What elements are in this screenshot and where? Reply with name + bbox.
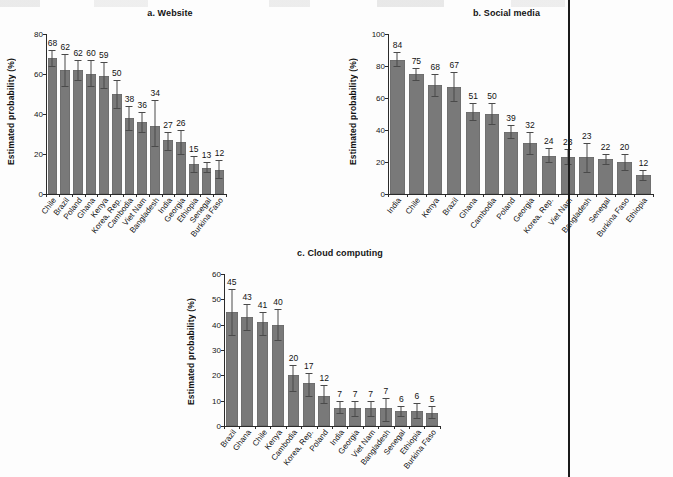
- bar-group[interactable]: 7Georgia: [347, 274, 362, 426]
- bar[interactable]: [86, 74, 96, 194]
- bar[interactable]: [99, 76, 109, 194]
- xtick-mark: [424, 426, 425, 429]
- xtick-mark: [520, 194, 521, 197]
- bar[interactable]: [466, 112, 480, 194]
- bar-group[interactable]: 68Kenya: [426, 34, 445, 194]
- bar-group[interactable]: 38Cambodia: [123, 34, 136, 194]
- panel-c-ytick-label: 30: [212, 346, 221, 355]
- bar-group[interactable]: 59Kenya: [97, 34, 110, 194]
- bar-group[interactable]: 13Senegal: [200, 34, 213, 194]
- bar[interactable]: [241, 317, 253, 426]
- bar-group[interactable]: 60Ghana: [85, 34, 98, 194]
- error-cap-upper: [394, 52, 401, 53]
- bar-group[interactable]: 40Kenya: [270, 274, 285, 426]
- bar-group[interactable]: 12Burkina Faso: [213, 34, 226, 194]
- error-cap-upper: [489, 103, 496, 104]
- error-cap-lower: [394, 66, 401, 67]
- bar-value-label: 12: [320, 373, 329, 383]
- panel-c-ytick-label: 20: [212, 371, 221, 380]
- bar-group[interactable]: 75Chile: [407, 34, 426, 194]
- panel-c-ytick-label: 60: [212, 270, 221, 279]
- bar[interactable]: [112, 94, 122, 194]
- xtick-mark: [255, 426, 256, 429]
- error-cap-upper: [621, 154, 628, 155]
- bar-group[interactable]: 43Ghana: [239, 274, 254, 426]
- bar-group[interactable]: 12Poland: [317, 274, 332, 426]
- error-bar: [293, 365, 294, 390]
- error-cap-lower: [413, 80, 420, 81]
- bar[interactable]: [73, 70, 83, 194]
- bar-group[interactable]: 45Brazil: [224, 274, 239, 426]
- xtick-mark: [213, 194, 214, 197]
- bar-group[interactable]: 24Korea, Rep.: [539, 34, 558, 194]
- bar-group[interactable]: 5Burkina Faso: [424, 274, 439, 426]
- error-bar: [65, 54, 66, 86]
- bar-group[interactable]: 32Georgia: [520, 34, 539, 194]
- bar-group[interactable]: 34Bangladesh: [149, 34, 162, 194]
- bar-value-label: 68: [48, 38, 57, 48]
- bar-group[interactable]: 7India: [332, 274, 347, 426]
- bar-value-label: 67: [449, 60, 458, 70]
- bar[interactable]: [48, 58, 58, 194]
- error-bar: [586, 143, 587, 172]
- error-cap-upper: [62, 54, 69, 55]
- xtick-mark: [226, 194, 227, 197]
- xtick-mark: [407, 194, 408, 197]
- bar-group[interactable]: 50Cambodia: [483, 34, 502, 194]
- bar-group[interactable]: 39Poland: [502, 34, 521, 194]
- bar-group[interactable]: 17Korea, Rep.: [301, 274, 316, 426]
- bar-group[interactable]: 23Bangladesh: [577, 34, 596, 194]
- bar-group[interactable]: 20Cambodia: [286, 274, 301, 426]
- bar-group[interactable]: 7Bangladesh: [378, 274, 393, 426]
- bar-group[interactable]: 15Ethiopia: [187, 34, 200, 194]
- bar[interactable]: [485, 114, 499, 194]
- error-cap-upper: [203, 162, 210, 163]
- bar-group[interactable]: 26Georgia: [174, 34, 187, 194]
- panel-c-ytick-label: 50: [212, 295, 221, 304]
- bar-group[interactable]: 12Ethiopia: [634, 34, 653, 194]
- bar-group[interactable]: 6Senegal: [394, 274, 409, 426]
- error-bar: [219, 160, 220, 178]
- bar-value-label: 6: [399, 394, 404, 404]
- error-bar: [90, 60, 91, 86]
- error-cap-upper: [165, 132, 172, 133]
- bar-group[interactable]: 50Korea, Rep.: [110, 34, 123, 194]
- bar-group[interactable]: 7Viet Nam: [363, 274, 378, 426]
- bar-value-label: 60: [86, 48, 95, 58]
- bar[interactable]: [60, 70, 70, 194]
- error-cap-lower: [432, 96, 439, 97]
- error-bar: [643, 170, 644, 180]
- bar-group[interactable]: 62Poland: [72, 34, 85, 194]
- bar-group[interactable]: 20Burkina Faso: [615, 34, 634, 194]
- error-cap-lower: [583, 172, 590, 173]
- bar-group[interactable]: 22Senegal: [596, 34, 615, 194]
- bar[interactable]: [428, 85, 442, 194]
- bar-group[interactable]: 6Ethiopia: [409, 274, 424, 426]
- bar[interactable]: [504, 132, 518, 194]
- error-cap-lower: [203, 172, 210, 173]
- error-cap-upper: [583, 143, 590, 144]
- bar-group[interactable]: 68Chile: [46, 34, 59, 194]
- bar-group[interactable]: 84India: [388, 34, 407, 194]
- bar[interactable]: [447, 87, 461, 194]
- error-bar: [432, 406, 433, 419]
- xtick-mark: [174, 194, 175, 197]
- error-bar: [385, 398, 386, 421]
- bar[interactable]: [390, 60, 404, 194]
- bar-group[interactable]: 36Viet Nam: [136, 34, 149, 194]
- bar-group[interactable]: 62Brazil: [59, 34, 72, 194]
- panel-b-social-media: b. Social media Estimated probability (%…: [340, 8, 673, 240]
- panel-a-title: a. Website: [0, 8, 340, 18]
- bar-value-label: 7: [337, 389, 342, 399]
- bar-group[interactable]: 67Brazil: [445, 34, 464, 194]
- error-cap-lower: [398, 416, 405, 417]
- bar-group[interactable]: 51Ghana: [464, 34, 483, 194]
- error-cap-lower: [62, 86, 69, 87]
- bar[interactable]: [257, 322, 269, 426]
- bar[interactable]: [409, 74, 423, 194]
- bar-group[interactable]: 27India: [162, 34, 175, 194]
- error-cap-upper: [244, 304, 251, 305]
- xtick-mark: [301, 426, 302, 429]
- error-cap-upper: [398, 406, 405, 407]
- bar-group[interactable]: 41Chile: [255, 274, 270, 426]
